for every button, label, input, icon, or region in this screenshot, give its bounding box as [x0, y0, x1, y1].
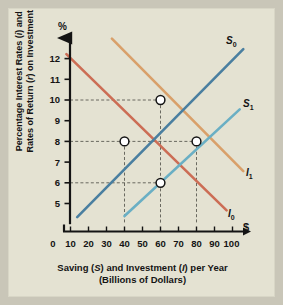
chart-figure: % $ 12 11 10 9 8 7 6 5 0 10 20 30 40 50 … — [0, 0, 283, 305]
y-tick-label-10: 10 — [44, 95, 60, 105]
y-axis-unit-symbol: % — [58, 22, 67, 32]
x-tick-label-40: 40 — [116, 239, 134, 249]
curve-label-S1-sub: 1 — [250, 104, 254, 111]
equilibrium-point-50-8 — [120, 137, 129, 146]
y-axis-title: Percentage Interest Rates (i) and Rates … — [14, 0, 37, 166]
curve-label-I0: I0 — [228, 209, 235, 221]
y-axis-title-line1: Percentage Interest Rates (i) and — [14, 0, 25, 166]
x-axis-title: Saving (S) and Investment (I) per Year (… — [30, 262, 255, 287]
y-tick-label-9: 9 — [44, 116, 60, 126]
x-tick-label-50: 50 — [134, 239, 152, 249]
curve-label-I1-sub: 1 — [249, 173, 253, 180]
x-tick-label-90: 90 — [206, 239, 224, 249]
x-axis-title-line1: Saving (S) and Investment (I) per Year — [30, 262, 255, 274]
curve-label-I0-sub: 0 — [231, 214, 235, 221]
equilibrium-point-70-10 — [156, 96, 165, 105]
x-tick-label-30: 30 — [98, 239, 116, 249]
y-tick-label-7: 7 — [44, 158, 60, 168]
chart-plot-area — [0, 0, 283, 305]
curve-label-S1: S1 — [243, 99, 254, 111]
equilibrium-point-90-8 — [192, 137, 201, 146]
curve-label-S1-text: S — [243, 98, 250, 109]
x-tick-label-80: 80 — [188, 239, 206, 249]
y-tick-label-11: 11 — [44, 75, 60, 85]
x-tick-label-10: 10 — [62, 239, 80, 249]
x-tick-label-100: 100 — [223, 239, 241, 249]
y-tick-label-5: 5 — [44, 199, 60, 209]
x-tick-label-0: 0 — [44, 239, 62, 249]
y-tick-label-6: 6 — [44, 178, 60, 188]
y-tick-label-12: 12 — [44, 54, 60, 64]
curve-S1 — [125, 109, 240, 216]
curve-label-I1: I1 — [246, 168, 253, 180]
x-axis-unit-symbol: $ — [243, 222, 249, 233]
x-tick-label-60: 60 — [152, 239, 170, 249]
y-tick-label-8: 8 — [44, 137, 60, 147]
curve-S0 — [77, 49, 243, 217]
x-axis-title-line2: (Billions of Dollars) — [30, 274, 255, 286]
curve-I1 — [112, 39, 243, 172]
curve-label-S0: S0 — [226, 36, 237, 48]
equilibrium-point-70-6 — [156, 178, 165, 187]
curve-I0 — [66, 54, 226, 210]
curve-label-S0-text: S — [226, 35, 233, 46]
curve-label-S0-sub: 0 — [233, 41, 237, 48]
y-axis-title-line2: Rates of Return (r) on Investment — [25, 0, 36, 166]
chart-svg — [0, 0, 283, 305]
x-tick-label-70: 70 — [170, 239, 188, 249]
x-tick-label-20: 20 — [80, 239, 98, 249]
